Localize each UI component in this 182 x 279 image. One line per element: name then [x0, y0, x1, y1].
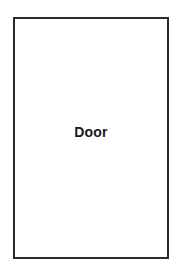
door-rectangle[interactable]: Door: [13, 17, 169, 259]
diagram-canvas: Door: [0, 0, 182, 279]
door-rectangle-label: Door: [15, 124, 167, 140]
